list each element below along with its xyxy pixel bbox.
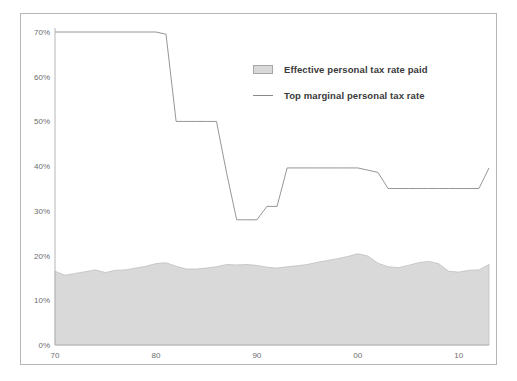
x-tick-label: 90 — [252, 351, 261, 360]
x-tick-label: 70 — [51, 351, 60, 360]
y-tick-label: 0% — [21, 341, 50, 350]
legend-item-top-marginal-rate: Top marginal personal tax rate — [253, 82, 483, 108]
chart-legend: Effective personal tax rate paid Top mar… — [253, 56, 483, 108]
legend-item-effective-rate: Effective personal tax rate paid — [253, 56, 483, 82]
y-tick-label: 20% — [21, 251, 50, 260]
y-tick-label: 50% — [21, 117, 50, 126]
area-swatch-icon — [253, 65, 273, 74]
area-series-effective-rate — [55, 254, 489, 345]
y-tick-label: 10% — [21, 296, 50, 305]
y-tick-label: 30% — [21, 206, 50, 215]
x-tick-label: 80 — [151, 351, 160, 360]
chart-figure: Effective personal tax rate paid Top mar… — [20, 13, 497, 365]
line-swatch-icon — [253, 95, 273, 96]
y-tick-label: 70% — [21, 28, 50, 37]
legend-label-top-marginal-rate: Top marginal personal tax rate — [284, 90, 425, 101]
plot-area: Effective personal tax rate paid Top mar… — [21, 14, 496, 364]
x-tick-label: 10 — [454, 351, 463, 360]
y-tick-label: 60% — [21, 72, 50, 81]
x-tick-label: 00 — [353, 351, 362, 360]
legend-label-effective-rate: Effective personal tax rate paid — [284, 64, 428, 75]
y-tick-label: 40% — [21, 162, 50, 171]
